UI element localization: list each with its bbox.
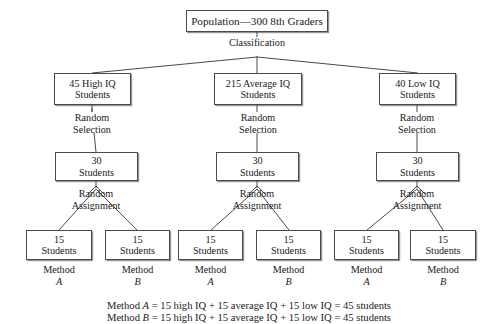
population-box-text: Population—300 8th Graders	[191, 15, 323, 28]
treatment-box-low-iq-method-a: 15 Students	[334, 230, 399, 260]
treatment-high-iq-a-line1: 15	[54, 234, 64, 245]
method-name-low-iq-a: Method	[334, 264, 399, 276]
group-high-iq-box: 45 High IQ Students	[54, 73, 131, 105]
group-high-iq-line2: Students	[75, 89, 110, 100]
summary-line-method-b: Method B = 15 high IQ + 15 average IQ + …	[0, 311, 498, 324]
random-selection-label-low-iq: Random Selection	[369, 112, 465, 136]
random-selection-line1-low-iq: Random	[369, 112, 465, 124]
group-low-iq-box: 40 Low IQ Students	[379, 73, 456, 105]
method-letter-average-iq-b: B	[256, 276, 321, 288]
treatment-high-iq-b-line2: Students	[120, 245, 155, 256]
random-selection-line2-low-iq: Selection	[369, 124, 465, 136]
group-average-iq-line1: 215 Average IQ	[226, 78, 290, 89]
random-assignment-label-low-iq: Random Assignment	[365, 188, 469, 212]
sample-box-high-iq: 30 Students	[55, 152, 138, 181]
random-assignment-line2-high-iq: Assignment	[44, 200, 148, 212]
method-letter-average-iq-a: A	[178, 276, 243, 288]
treatment-box-low-iq-method-b: 15 Students	[410, 230, 476, 260]
treatment-low-iq-b-line1: 15	[438, 234, 448, 245]
treatment-average-iq-b-line1: 15	[283, 234, 293, 245]
random-assignment-line1-average-iq: Random	[205, 188, 309, 200]
method-label-high-iq-a: Method A	[26, 264, 92, 288]
sample-average-iq-line2: Students	[240, 167, 275, 178]
treatment-low-iq-a-line2: Students	[349, 245, 384, 256]
group-low-iq-line2: Students	[400, 89, 435, 100]
treatment-average-iq-a-line2: Students	[193, 245, 228, 256]
sample-box-low-iq: 30 Students	[376, 152, 459, 181]
random-selection-line1-high-iq: Random	[44, 112, 140, 124]
group-average-iq-line2: Students	[240, 89, 275, 100]
sample-high-iq-line1: 30	[91, 155, 101, 166]
treatment-box-average-iq-method-a: 15 Students	[178, 230, 243, 260]
summary-a-rest: = 15 high IQ + 15 average IQ + 15 low IQ…	[149, 300, 391, 311]
sample-average-iq-line1: 30	[252, 155, 262, 166]
method-letter-high-iq-b: B	[105, 276, 170, 288]
random-assignment-label-average-iq: Random Assignment	[205, 188, 309, 212]
sample-low-iq-line1: 30	[412, 155, 422, 166]
treatment-high-iq-b-line1: 15	[132, 234, 142, 245]
treatment-average-iq-a-line1: 15	[205, 234, 215, 245]
treatment-box-average-iq-method-b: 15 Students	[256, 230, 321, 260]
method-letter-low-iq-b: B	[410, 276, 476, 288]
random-selection-label-average-iq: Random Selection	[210, 112, 306, 136]
connector-fan-right	[257, 57, 418, 73]
group-low-iq-line1: 40 Low IQ	[395, 78, 440, 89]
random-selection-line1-average-iq: Random	[210, 112, 306, 124]
random-assignment-line1-low-iq: Random	[365, 188, 469, 200]
random-selection-line2-average-iq: Selection	[210, 124, 306, 136]
summary-b-prefix: Method	[107, 312, 143, 323]
flowchart-diagram: Population—300 8th Graders Classificatio…	[0, 0, 498, 324]
method-label-low-iq-b: Method B	[410, 264, 476, 288]
classification-label: Classification	[206, 37, 308, 49]
random-selection-line2-high-iq: Selection	[44, 124, 140, 136]
method-label-average-iq-a: Method A	[178, 264, 243, 288]
treatment-high-iq-a-line2: Students	[41, 245, 76, 256]
sample-box-average-iq: 30 Students	[216, 152, 299, 181]
summary-a-prefix: Method	[107, 300, 143, 311]
treatment-box-high-iq-method-a: 15 Students	[26, 230, 92, 260]
population-box: Population—300 8th Graders	[186, 10, 328, 32]
method-name-average-iq-a: Method	[178, 264, 243, 276]
method-name-low-iq-b: Method	[410, 264, 476, 276]
random-assignment-line2-low-iq: Assignment	[365, 200, 469, 212]
method-letter-high-iq-a: A	[26, 276, 92, 288]
random-assignment-label-high-iq: Random Assignment	[44, 188, 148, 212]
method-name-high-iq-a: Method	[26, 264, 92, 276]
group-average-iq-box: 215 Average IQ Students	[214, 73, 302, 105]
summary-b-rest: = 15 high IQ + 15 average IQ + 15 low IQ…	[149, 312, 391, 323]
group-high-iq-line1: 45 High IQ	[69, 78, 115, 89]
random-assignment-line1-high-iq: Random	[44, 188, 148, 200]
random-selection-label-high-iq: Random Selection	[44, 112, 140, 136]
method-label-low-iq-a: Method A	[334, 264, 399, 288]
treatment-box-high-iq-method-b: 15 Students	[105, 230, 170, 260]
method-name-average-iq-b: Method	[256, 264, 321, 276]
method-letter-low-iq-a: A	[334, 276, 399, 288]
sample-low-iq-line2: Students	[400, 167, 435, 178]
method-name-high-iq-b: Method	[105, 264, 170, 276]
treatment-average-iq-b-line2: Students	[271, 245, 306, 256]
sample-high-iq-line2: Students	[79, 167, 114, 178]
method-label-high-iq-b: Method B	[105, 264, 170, 288]
treatment-low-iq-b-line2: Students	[425, 245, 460, 256]
treatment-low-iq-a-line1: 15	[361, 234, 371, 245]
method-label-average-iq-b: Method B	[256, 264, 321, 288]
classification-label-text: Classification	[206, 37, 308, 49]
connector-fan-left	[92, 57, 257, 73]
random-assignment-line2-average-iq: Assignment	[205, 200, 309, 212]
